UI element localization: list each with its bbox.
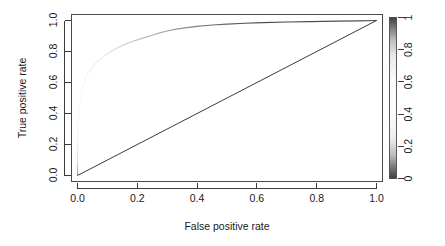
roc-curve-figure: 0.0 0.2 0.4 0.6 0.8 1.0 True positive ra… bbox=[0, 0, 445, 246]
colorbar-label-1: 0.2 bbox=[402, 139, 414, 154]
y-tick-label-4: 0.8 bbox=[47, 44, 59, 59]
x-tick-label-4: 0.8 bbox=[309, 192, 324, 204]
colorbar-gradient bbox=[390, 18, 397, 179]
colorbar-label-2: 0.4 bbox=[402, 107, 414, 122]
x-tick-label-2: 0.4 bbox=[190, 192, 205, 204]
x-axis-title: False positive rate bbox=[184, 220, 269, 232]
roc-plot-svg: 0.0 0.2 0.4 0.6 0.8 1.0 True positive ra… bbox=[0, 0, 445, 246]
colorbar-label-4: 0.8 bbox=[402, 42, 414, 57]
x-tick-label-1: 0.2 bbox=[130, 192, 145, 204]
x-tick-label-3: 0.6 bbox=[250, 192, 265, 204]
y-tick-label-3: 0.6 bbox=[47, 75, 59, 90]
y-axis-title: True positive rate bbox=[16, 57, 28, 138]
x-tick-label-0: 0.0 bbox=[70, 192, 85, 204]
colorbar-label-5: 1 bbox=[402, 14, 414, 20]
y-tick-label-1: 0.2 bbox=[47, 137, 59, 152]
x-tick-label-5: 1.0 bbox=[369, 192, 384, 204]
y-tick-label-0: 0.0 bbox=[47, 168, 59, 183]
figure-background bbox=[0, 0, 445, 246]
y-tick-label-2: 0.4 bbox=[47, 106, 59, 121]
colorbar-label-3: 0.6 bbox=[402, 74, 414, 89]
y-tick-label-5: 1.0 bbox=[47, 13, 59, 28]
colorbar-label-0: 0 bbox=[402, 175, 414, 181]
